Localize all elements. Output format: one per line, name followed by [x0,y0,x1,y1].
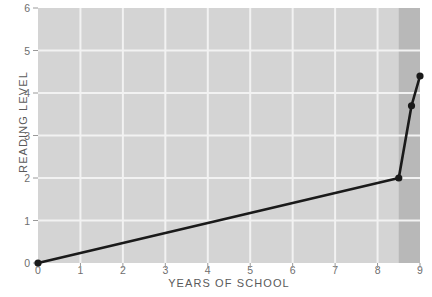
data-point-marker [408,102,415,109]
data-point-marker [416,72,423,79]
data-point-marker [34,259,41,266]
chart-figure: READING LEVEL YEARS OF SCHOOL 0123456 01… [0,0,432,297]
plot-area [0,0,432,297]
data-point-marker [395,174,402,181]
